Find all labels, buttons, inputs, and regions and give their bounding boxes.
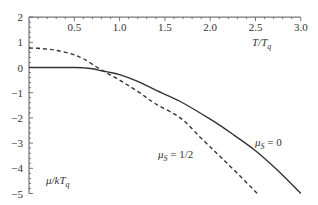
- y-tick-label: −5: [11, 188, 23, 200]
- label-mu-s-0: μS = 0: [254, 136, 282, 151]
- y-tick-label: −3: [11, 137, 23, 149]
- x-tick-label: 1.5: [158, 21, 172, 33]
- chart: 0.51.01.52.02.53.0210−1−2−3−4−5 T/Tq μ/k…: [0, 0, 318, 205]
- x-tick-label: 3.0: [294, 21, 308, 33]
- x-tick-label: 2.0: [203, 21, 217, 33]
- label-mu-s-half: μS = 1/2: [157, 148, 193, 163]
- y-tick-label: −4: [11, 162, 23, 174]
- y-tick-label: 1: [18, 36, 24, 48]
- x-tick-label: 1.0: [113, 21, 127, 33]
- y-tick-label: −2: [11, 112, 23, 124]
- x-tick-label: 2.5: [249, 21, 263, 33]
- y-tick-label: −1: [11, 87, 23, 99]
- curve-mu-s-half: [29, 48, 257, 193]
- x-axis-title: T/Tq: [252, 36, 271, 51]
- y-tick-label: 2: [18, 11, 24, 23]
- curve-mu-s-0: [29, 68, 301, 194]
- y-tick-label: 0: [18, 62, 24, 74]
- y-axis-title: μ/kTq: [45, 174, 70, 189]
- x-tick-label: 0.5: [67, 21, 81, 33]
